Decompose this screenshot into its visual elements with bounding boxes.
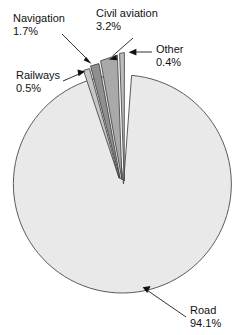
navigation-callout: Navigation 1.7% <box>13 12 92 64</box>
road-leader-line <box>148 291 187 318</box>
road-label: Road <box>190 304 216 316</box>
pie-chart-figure: Navigation 1.7% Civil aviation 3.2% Othe… <box>0 0 247 335</box>
navigation-percent: 1.7% <box>13 25 38 37</box>
road-percent: 94.1% <box>190 317 221 329</box>
railways-label: Railways <box>16 69 61 81</box>
navigation-leader-line <box>62 34 89 61</box>
civil-aviation-percent: 3.2% <box>96 20 121 32</box>
navigation-label: Navigation <box>13 12 65 24</box>
railways-percent: 0.5% <box>16 82 41 94</box>
civil-aviation-label: Civil aviation <box>96 7 158 19</box>
navigation-arrow-head <box>84 57 92 64</box>
other-arrow-head <box>129 49 137 56</box>
road-callout: Road 94.1% <box>143 286 222 329</box>
railways-leader-line <box>63 74 80 81</box>
other-callout: Other 0.4% <box>129 43 184 68</box>
pie-chart-canvas: Navigation 1.7% Civil aviation 3.2% Othe… <box>0 0 247 335</box>
other-label: Other <box>156 43 184 55</box>
other-percent: 0.4% <box>156 56 181 68</box>
